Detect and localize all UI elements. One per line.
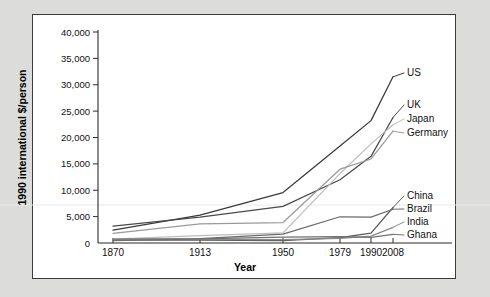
series-line-us <box>113 77 393 230</box>
series-line-brazil <box>113 209 393 239</box>
series-label-ghana: Ghana <box>407 229 437 240</box>
y-tick-label: 30,000 <box>61 79 90 90</box>
series-label-us: US <box>407 67 421 78</box>
series-lines <box>113 77 393 241</box>
y-tick-label: 25,000 <box>61 106 90 117</box>
series-line-germany <box>113 131 393 233</box>
series-label-india: India <box>407 216 429 227</box>
series-leader-uk <box>393 105 404 117</box>
series-line-uk <box>113 117 393 226</box>
series-label-uk: UK <box>407 99 421 110</box>
series-label-brazil: Brazil <box>407 203 432 214</box>
chart-figure: 05,00010,00015,00020,00025,00030,00035,0… <box>0 0 490 297</box>
series-leader-china <box>393 196 404 208</box>
series-leader-germany <box>393 131 404 133</box>
y-tick-label: 5,000 <box>66 211 90 222</box>
y-tick-label: 0 <box>85 238 90 249</box>
x-tick-label: 1990 <box>360 247 383 258</box>
y-tick-label: 20,000 <box>61 132 90 143</box>
chart-canvas: 05,00010,00015,00020,00025,00030,00035,0… <box>0 0 490 297</box>
series-labels: USUKJapanGermanyChinaBrazilIndiaGhana <box>393 67 448 240</box>
y-axis-ticks: 05,00010,00015,00020,00025,00030,00035,0… <box>61 27 98 249</box>
series-leader-ghana <box>393 234 404 235</box>
series-label-japan: Japan <box>407 113 434 124</box>
series-label-china: China <box>407 190 434 201</box>
y-tick-label: 10,000 <box>61 185 90 196</box>
series-leader-japan <box>393 119 404 125</box>
x-axis-title: Year <box>234 261 256 273</box>
y-tick-label: 35,000 <box>61 53 90 64</box>
x-tick-label: 1913 <box>189 247 212 258</box>
series-leader-india <box>393 222 404 227</box>
x-tick-label: 1870 <box>102 247 125 258</box>
y-tick-label: 15,000 <box>61 158 90 169</box>
x-tick-label: 1979 <box>329 247 352 258</box>
x-tick-label: 2008 <box>382 247 405 258</box>
y-axis-title: 1990 international $/person <box>16 70 28 206</box>
x-tick-label: 1950 <box>272 247 295 258</box>
series-leader-us <box>393 73 404 77</box>
y-tick-label: 40,000 <box>61 27 90 38</box>
series-label-germany: Germany <box>407 127 448 138</box>
